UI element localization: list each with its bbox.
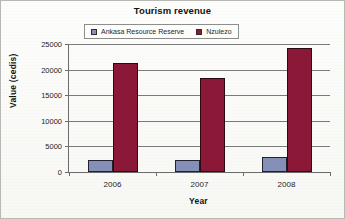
legend-swatch-icon bbox=[196, 29, 202, 35]
bar bbox=[175, 160, 200, 172]
chart-title: Tourism revenue bbox=[0, 5, 345, 16]
bar bbox=[262, 157, 287, 172]
bar-group bbox=[69, 44, 156, 172]
y-axis-tick-label: 20000 bbox=[41, 65, 62, 74]
bar bbox=[200, 78, 225, 172]
y-axis-tick-label: 15000 bbox=[41, 91, 62, 100]
bar bbox=[287, 48, 312, 172]
x-axis-tick-label: 2007 bbox=[191, 180, 209, 189]
legend-entry: Ankasa Resource Reserve bbox=[91, 28, 184, 35]
x-axis-tick bbox=[69, 172, 70, 176]
bar-group bbox=[156, 44, 243, 172]
bar bbox=[88, 160, 113, 172]
y-axis-tick-label: 10000 bbox=[41, 116, 62, 125]
y-axis-tick-label: 5000 bbox=[45, 142, 62, 151]
y-axis-tick-label: 0 bbox=[58, 168, 62, 177]
legend-swatch-icon bbox=[91, 29, 97, 35]
y-axis-tick-label: 25000 bbox=[41, 40, 62, 49]
x-axis-tick bbox=[243, 172, 244, 176]
chart-screenshot: Tourism revenue Ankasa Resource ReserveN… bbox=[0, 0, 345, 219]
legend-entry: Nzulezo bbox=[196, 28, 231, 35]
y-axis-title: Value (cedis) bbox=[8, 53, 18, 108]
legend-label: Nzulezo bbox=[206, 28, 231, 35]
x-axis-title: Year bbox=[68, 196, 329, 206]
legend-label: Ankasa Resource Reserve bbox=[101, 28, 184, 35]
chart-legend: Ankasa Resource ReserveNzulezo bbox=[84, 24, 239, 39]
x-axis-tick bbox=[330, 172, 331, 176]
bar-group bbox=[243, 44, 330, 172]
bar bbox=[113, 63, 138, 172]
x-axis-tick bbox=[156, 172, 157, 176]
x-axis-tick-label: 2008 bbox=[278, 180, 296, 189]
plot-area: 0500010000150002000025000200620072008 bbox=[68, 44, 330, 173]
x-axis-tick-label: 2006 bbox=[104, 180, 122, 189]
